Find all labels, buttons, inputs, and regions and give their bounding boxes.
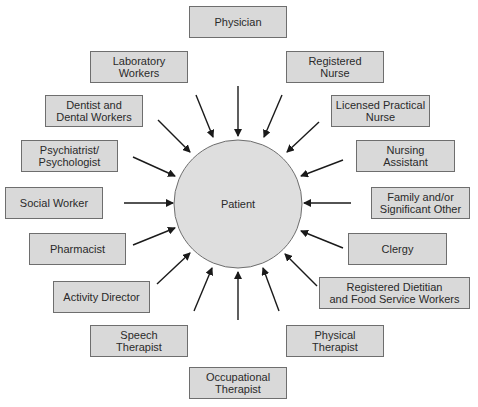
arrow-licensed-practical-nurse [287,122,319,152]
box-licensed-practical-nurse: Licensed Practical Nurse [331,95,430,127]
arrow-clergy [301,231,343,248]
box-laboratory-workers: Laboratory Workers [90,51,188,83]
box-registered-nurse: Registered Nurse [286,51,384,83]
arrow-dentist [158,120,190,152]
arrow-laboratory-workers [196,95,213,137]
box-clergy: Clergy [348,233,447,265]
box-occupational-therapist: Occupational Therapist [189,367,287,399]
box-nursing-assistant: Nursing Assistant [356,140,455,172]
box-registered-dietitian: Registered Dietitian and Food Service Wo… [319,277,470,309]
box-physical-therapist: Physical Therapist [286,325,384,357]
arrow-registered-nurse [264,95,282,137]
box-dentist: Dentist and Dental Workers [45,95,143,127]
box-pharmacist: Pharmacist [29,233,126,265]
arrow-physical-therapist [263,268,279,311]
box-activity-director: Activity Director [53,281,150,313]
box-social-worker: Social Worker [5,187,103,219]
arrow-registered-dietitian [285,254,317,286]
box-speech-therapist: Speech Therapist [90,325,188,357]
arrow-psychiatrist [133,157,175,176]
box-family: Family and/or Significant Other [371,187,470,219]
arrow-pharmacist [133,228,175,245]
care-team-diagram: Patient PhysicianLaboratory WorkersRegis… [0,0,478,407]
arrow-activity-director [157,253,190,284]
box-physician: Physician [189,6,287,38]
box-psychiatrist: Psychiatrist/ Psychologist [21,140,118,172]
patient-label: Patient [221,198,255,210]
arrow-nursing-assistant [301,160,343,176]
arrow-speech-therapist [194,268,212,311]
